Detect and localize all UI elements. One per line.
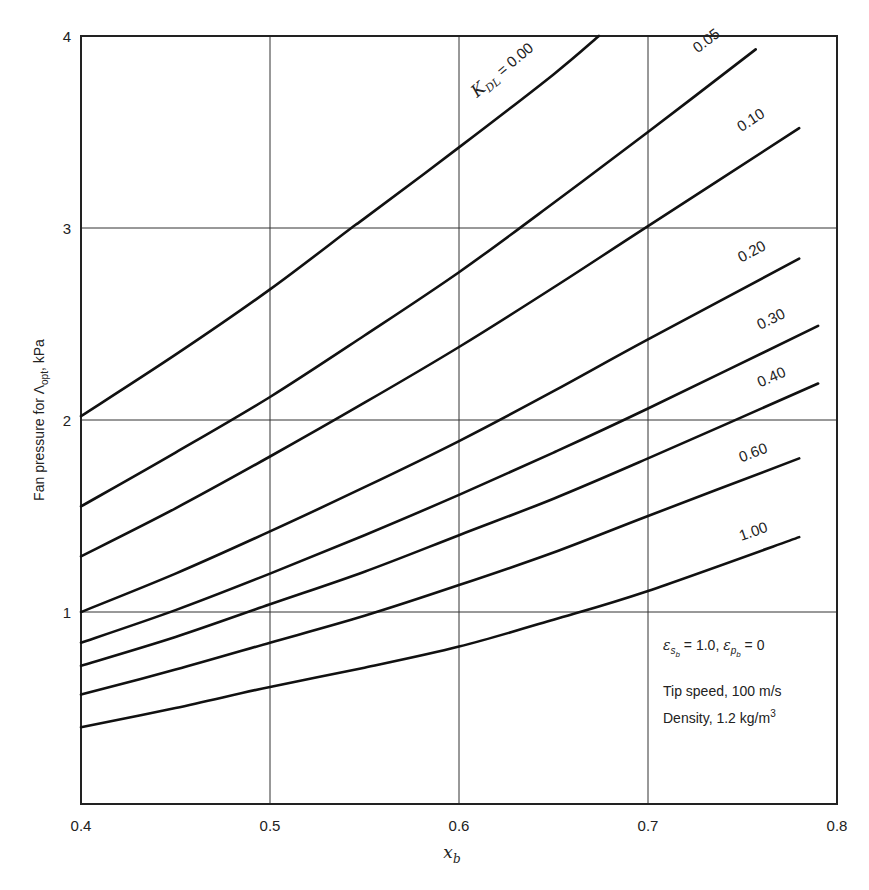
x-tick-label: 0.7 (638, 817, 659, 834)
y-tick-label: 2 (63, 412, 71, 429)
y-tick-label: 3 (63, 220, 71, 237)
curve-kdl-0-40 (81, 384, 818, 666)
curve-label-kdl-0-40: 0.40 (754, 363, 788, 390)
x-tick-label: 0.6 (449, 817, 470, 834)
curve-label-kdl-0-20: 0.20 (735, 237, 769, 266)
x-tick-label: 0.5 (260, 817, 281, 834)
x-axis-label: xb (443, 842, 460, 866)
curve-kdl-0-20 (81, 259, 799, 612)
note-tip-speed: Tip speed, 100 m/s (663, 683, 782, 699)
x-tick-label: 0.8 (827, 817, 848, 834)
curve-label-kdl-0-05: 0.05 (689, 25, 723, 56)
fan-pressure-chart: KDL = 0.000.050.100.200.300.400.601.00 0… (0, 0, 869, 890)
curve-label-kdl-0-10: 0.10 (734, 105, 768, 135)
curve-label-kdl-1-00: 1.00 (737, 518, 770, 544)
note-epsilon: εsb = 1.0, εpb = 0 (663, 637, 765, 659)
curves (81, 36, 818, 727)
y-axis-label: Fan pressure for Λopt, kPa (31, 339, 50, 501)
curve-label-kdl-0-60: 0.60 (736, 439, 769, 465)
curve-kdl-0-30 (81, 326, 818, 643)
curve-labels: KDL = 0.000.050.100.200.300.400.601.00 (466, 25, 788, 544)
y-tick-label: 1 (63, 604, 71, 621)
curve-label-kdl-0-30: 0.30 (754, 305, 788, 333)
y-tick-label: 4 (63, 28, 71, 45)
conditions-note: εsb = 1.0, εpb = 0 Tip speed, 100 m/s De… (663, 637, 782, 726)
curve-kdl-0-05 (81, 49, 756, 506)
curve-kdl-0-10 (81, 128, 799, 556)
x-tick-label: 0.4 (71, 817, 92, 834)
note-density: Density, 1.2 kg/m3 (663, 708, 776, 726)
